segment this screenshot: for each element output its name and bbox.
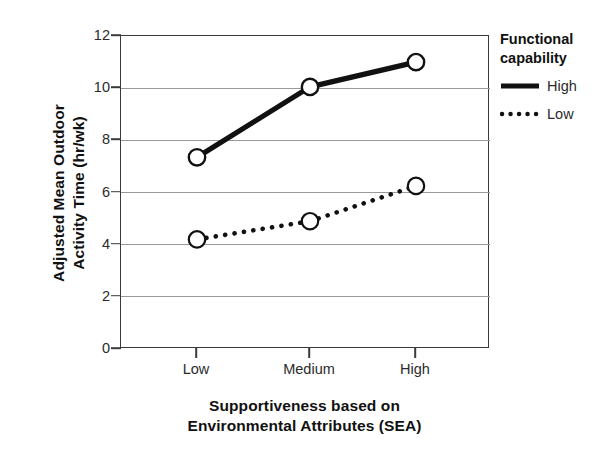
x-tick-mark-low — [195, 348, 197, 358]
x-tick-mark-high — [414, 348, 416, 358]
y-tick-label-0: 0 — [78, 341, 110, 356]
series-low-marker-high — [408, 178, 424, 194]
y-tick-label-6: 6 — [78, 184, 110, 199]
legend-label-high: High — [547, 79, 577, 94]
legend-title-line-2: capability — [500, 49, 605, 68]
legend-entry-low[interactable]: Low — [500, 105, 605, 124]
series-high — [189, 54, 424, 166]
series-high-line — [197, 62, 416, 157]
series-low-marker-low — [189, 231, 205, 247]
series-low — [189, 178, 424, 248]
y-tick-label-10: 10 — [78, 80, 110, 95]
y-tick-label-2: 2 — [78, 289, 110, 304]
gridlines — [121, 88, 490, 297]
plot-svg — [121, 36, 490, 349]
solid-line-icon — [500, 79, 540, 93]
y-tick-label-8: 8 — [78, 132, 110, 147]
x-tick-label-medium: Medium — [283, 362, 335, 377]
legend-title: Functional capability — [500, 30, 605, 68]
dotted-line-icon — [500, 107, 540, 121]
y-axis-tick-labels: 12 10 8 6 4 2 0 — [78, 0, 110, 451]
y-tick-label-12: 12 — [78, 28, 110, 43]
series-low-marker-medium — [302, 213, 318, 229]
series-high-marker-medium — [302, 79, 318, 95]
x-axis-title-line-1: Supportiveness based on — [120, 396, 489, 416]
x-tick-label-high: High — [400, 362, 430, 377]
chart-figure: Adjusted Mean Outdoor Activity Time (hr/… — [0, 0, 605, 451]
series-high-marker-high — [408, 54, 424, 70]
y-tick-label-4: 4 — [78, 236, 110, 251]
x-axis-title-line-2: Environmental Attributes (SEA) — [120, 416, 489, 436]
x-axis-title: Supportiveness based on Environmental At… — [120, 396, 489, 437]
x-tick-mark-medium — [308, 348, 310, 358]
y-axis-title-line-1: Adjusted Mean Outdoor — [49, 104, 69, 282]
legend-label-low: Low — [547, 107, 574, 122]
plot-area — [120, 35, 489, 348]
legend-entry-high[interactable]: High — [500, 77, 605, 96]
legend-title-line-1: Functional — [500, 30, 605, 49]
series-high-marker-low — [189, 149, 205, 165]
x-tick-label-low: Low — [183, 362, 210, 377]
legend: Functional capability High Low — [500, 30, 605, 124]
